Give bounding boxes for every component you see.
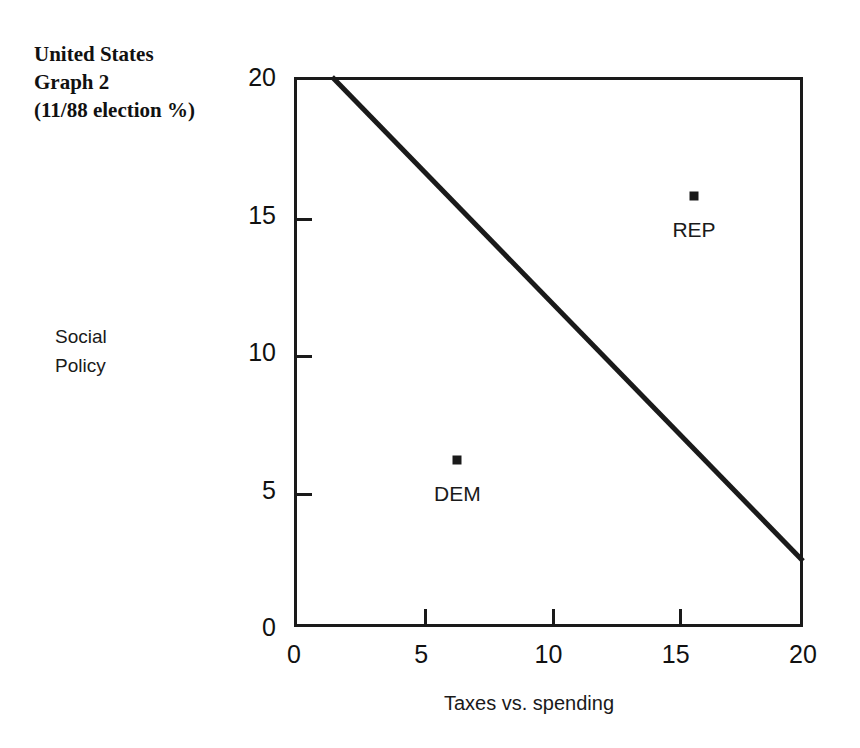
- chart-title-line-2: Graph 2: [34, 68, 195, 96]
- x-axis-title-text: Taxes vs. spending: [444, 692, 614, 714]
- y-axis-tick: [297, 493, 312, 496]
- y-axis-tick-label: 0: [216, 613, 276, 642]
- chart-title-block: United States Graph 2 (11/88 election %): [34, 40, 195, 124]
- x-axis-tick-label: 0: [264, 640, 324, 669]
- data-point-dem: [453, 455, 462, 464]
- y-axis-tick-label: 10: [216, 338, 276, 367]
- x-axis-tick: [552, 609, 555, 624]
- y-axis-title-line-2: Policy: [55, 351, 107, 380]
- data-point-rep: [690, 191, 699, 200]
- x-axis-tick-label: 10: [519, 640, 579, 669]
- y-axis-tick-label: 20: [216, 63, 276, 92]
- chart-page: United States Graph 2 (11/88 election %)…: [0, 0, 860, 748]
- x-axis-tick-label: 15: [646, 640, 706, 669]
- x-axis-tick-label: 20: [773, 640, 833, 669]
- x-axis-title: Taxes vs. spending: [0, 692, 860, 715]
- y-axis-title: Social Policy: [55, 322, 107, 380]
- y-axis-tick: [297, 218, 312, 221]
- plot-area: DEMREP: [294, 77, 803, 627]
- y-axis-title-line-1: Social: [55, 322, 107, 351]
- x-axis-tick: [679, 609, 682, 624]
- chart-title-line-1: United States: [34, 40, 195, 68]
- chart-title-line-3: (11/88 election %): [34, 96, 195, 124]
- y-axis-tick-label: 5: [216, 475, 276, 504]
- data-point-label-dem: DEM: [434, 482, 481, 506]
- y-axis-tick: [297, 355, 312, 358]
- y-axis-tick-labels: 05101520: [214, 0, 276, 748]
- y-axis-tick-label: 15: [216, 200, 276, 229]
- x-axis-tick-label: 5: [391, 640, 451, 669]
- data-point-label-rep: REP: [672, 218, 715, 242]
- x-axis-tick-labels: 05101520: [0, 640, 860, 680]
- x-axis-tick: [424, 609, 427, 624]
